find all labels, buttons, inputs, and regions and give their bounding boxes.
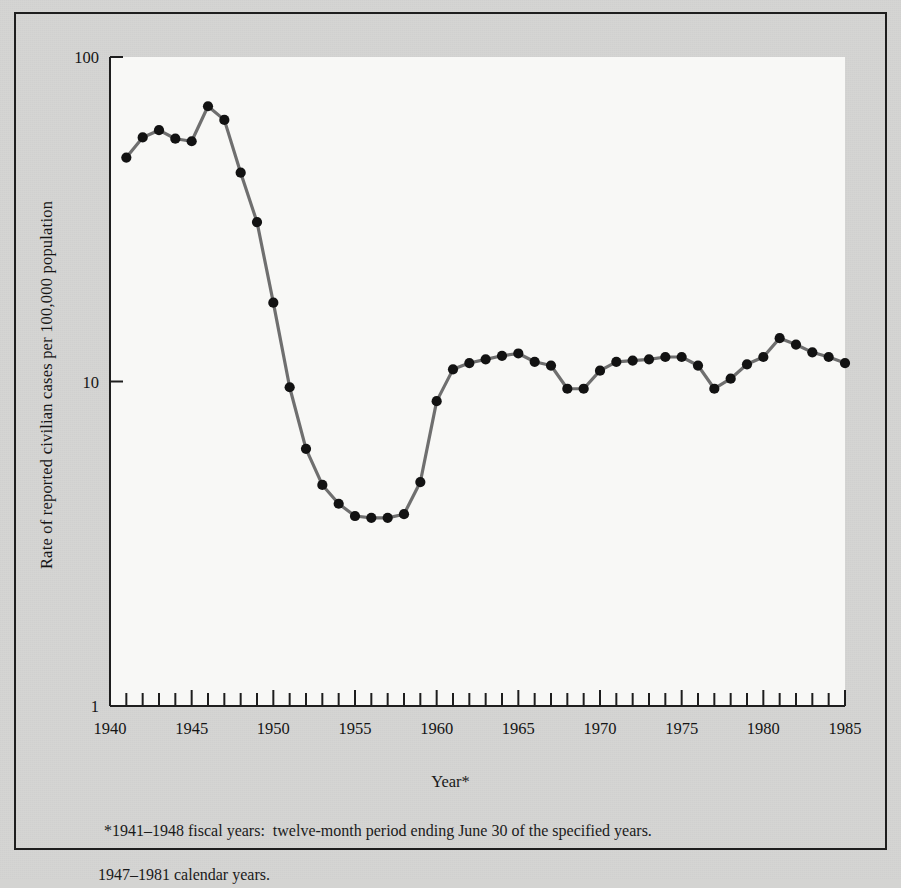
data-point-marker bbox=[644, 354, 654, 364]
data-point-marker bbox=[317, 480, 327, 490]
data-point-marker bbox=[513, 348, 523, 358]
data-point-marker bbox=[334, 499, 344, 509]
data-point-marker bbox=[236, 168, 246, 178]
data-point-marker bbox=[415, 477, 425, 487]
data-point-marker bbox=[546, 360, 556, 370]
y-tick-label: 100 bbox=[74, 48, 99, 67]
data-point-marker bbox=[252, 217, 262, 227]
x-axis-title-text: Year* bbox=[431, 772, 470, 791]
data-point-marker bbox=[758, 352, 768, 362]
data-point-marker bbox=[579, 384, 589, 394]
footnote-line-2: 1947–1981 calendar years. bbox=[88, 864, 652, 886]
data-point-marker bbox=[399, 509, 409, 519]
x-tick-label: 1955 bbox=[339, 719, 372, 738]
data-point-marker bbox=[285, 382, 295, 392]
data-point-marker bbox=[497, 351, 507, 361]
data-point-marker bbox=[464, 358, 474, 368]
data-point-marker bbox=[807, 347, 817, 357]
x-tick-label: 1985 bbox=[829, 719, 862, 738]
x-tick-label: 1945 bbox=[175, 719, 208, 738]
data-point-marker bbox=[562, 384, 572, 394]
data-point-marker bbox=[203, 101, 213, 111]
data-point-marker bbox=[628, 355, 638, 365]
x-tick-label: 1965 bbox=[502, 719, 535, 738]
data-point-marker bbox=[121, 152, 131, 162]
data-point-marker bbox=[350, 511, 360, 521]
data-point-marker bbox=[301, 444, 311, 454]
data-point-marker bbox=[154, 125, 164, 135]
data-point-marker bbox=[383, 513, 393, 523]
data-point-marker bbox=[840, 358, 850, 368]
y-axis-title: Rate of reported civilian cases per 100,… bbox=[34, 150, 60, 620]
data-point-marker bbox=[432, 396, 442, 406]
y-tick-label: 10 bbox=[83, 373, 100, 392]
data-point-marker bbox=[530, 357, 540, 367]
x-tick-label: 1960 bbox=[420, 719, 453, 738]
data-point-marker bbox=[693, 360, 703, 370]
data-point-marker bbox=[366, 513, 376, 523]
y-tick-label: 1 bbox=[91, 697, 99, 716]
data-point-marker bbox=[187, 136, 197, 146]
data-point-marker bbox=[709, 384, 719, 394]
x-tick-label: 1950 bbox=[257, 719, 290, 738]
data-point-marker bbox=[775, 333, 785, 343]
y-axis-title-text: Rate of reported civilian cases per 100,… bbox=[37, 201, 57, 569]
x-axis-title: Year* bbox=[0, 772, 901, 792]
data-point-marker bbox=[677, 352, 687, 362]
data-point-marker bbox=[219, 115, 229, 125]
data-point-marker bbox=[726, 374, 736, 384]
x-tick-label: 1940 bbox=[94, 719, 127, 738]
data-point-marker bbox=[138, 132, 148, 142]
data-point-marker bbox=[448, 364, 458, 374]
data-point-marker bbox=[268, 298, 278, 308]
data-point-marker bbox=[481, 354, 491, 364]
data-point-marker bbox=[170, 134, 180, 144]
data-point-marker bbox=[742, 359, 752, 369]
data-point-marker bbox=[824, 352, 834, 362]
footnote: *1941–1948 fiscal years: twelve-month pe… bbox=[88, 798, 652, 888]
data-point-marker bbox=[660, 352, 670, 362]
x-tick-label: 1980 bbox=[747, 719, 780, 738]
x-tick-label: 1970 bbox=[584, 719, 617, 738]
data-point-marker bbox=[611, 357, 621, 367]
footnote-line-1: *1941–1948 fiscal years: twelve-month pe… bbox=[104, 822, 652, 839]
data-point-marker bbox=[595, 366, 605, 376]
data-point-marker bbox=[791, 339, 801, 349]
x-tick-label: 1975 bbox=[665, 719, 698, 738]
